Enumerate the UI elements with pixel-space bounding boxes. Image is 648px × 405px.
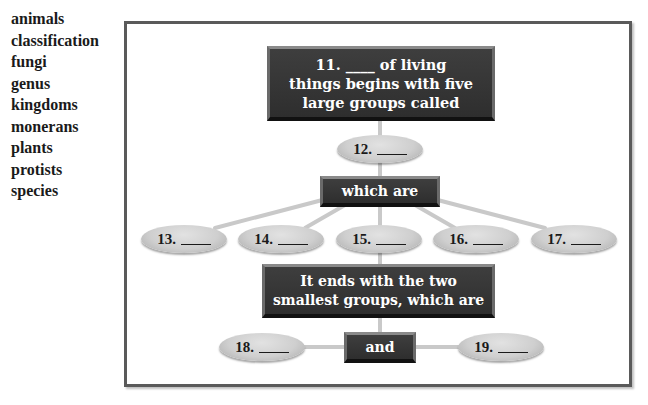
top-statement-box: 11. ____ of living things begins with fi…	[267, 46, 495, 121]
top-statement-line: things begins with five	[289, 74, 473, 93]
blank-line	[571, 234, 601, 245]
blank-number: 18.	[235, 339, 254, 356]
blank-number: 16.	[449, 231, 468, 248]
blank-line	[498, 342, 528, 353]
blank-line	[259, 342, 289, 353]
blank-oval-17[interactable]: 17.	[531, 225, 617, 253]
blank-number: 19.	[474, 339, 493, 356]
blank-oval-14[interactable]: 14.	[238, 225, 324, 253]
ends-statement-box: It ends with the two smallest groups, wh…	[262, 264, 495, 318]
blank-line	[278, 234, 308, 245]
blank-oval-16[interactable]: 16.	[433, 225, 519, 253]
blank-line	[181, 234, 211, 245]
blank-line	[377, 144, 407, 155]
connector-which-to-16	[415, 205, 455, 228]
blank-oval-15[interactable]: 15.	[336, 225, 422, 253]
and-box: and	[344, 332, 416, 363]
blank-line	[473, 234, 503, 245]
blank-number: 13.	[157, 231, 176, 248]
ends-statement-line: It ends with the two	[273, 272, 484, 291]
blank-oval-12[interactable]: 12.	[337, 135, 423, 163]
blank-number: 15.	[352, 231, 371, 248]
top-statement-line: 11. ____ of living	[289, 55, 473, 74]
blank-number: 17.	[547, 231, 566, 248]
and-label: and	[365, 339, 394, 355]
connector-which-to-14	[305, 205, 345, 228]
top-statement-line: large groups called	[289, 93, 473, 112]
blank-line	[376, 234, 406, 245]
which-are-label: which are	[342, 183, 418, 199]
blank-number: 12.	[353, 141, 372, 158]
ends-statement-line: smallest groups, which are	[273, 291, 484, 310]
blank-oval-18[interactable]: 18.	[219, 333, 305, 361]
blank-number: 14.	[254, 231, 273, 248]
blank-oval-13[interactable]: 13.	[141, 225, 227, 253]
which-are-box: which are	[320, 176, 440, 207]
blank-oval-19[interactable]: 19.	[458, 333, 544, 361]
